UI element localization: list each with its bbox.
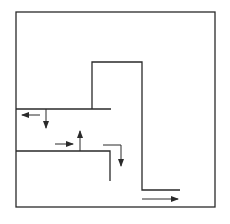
arrow-bend-down-icon [103,145,121,166]
flow-diagram [0,0,230,224]
walls-group [16,62,180,190]
arrows-group [22,109,178,199]
tall-step-wall [92,62,180,190]
lower-ledge-wall [16,151,110,181]
